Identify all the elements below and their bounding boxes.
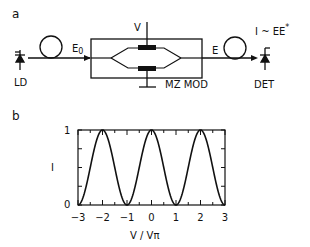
x-tick-label: 2 — [197, 212, 203, 223]
detector-equation: I ~ EE* — [255, 23, 289, 37]
electrode-top — [138, 45, 156, 50]
axis-ticks — [78, 130, 225, 205]
voltage-label: V — [134, 22, 141, 33]
x-tick-label: 3 — [222, 212, 228, 223]
x-tick-label: 1 — [173, 212, 179, 223]
y-tick-0: 0 — [64, 199, 70, 210]
laser-diode-icon — [15, 50, 25, 70]
chart: −3−2−10123 1 0 I V / Vπ — [51, 125, 228, 241]
fiber-coil-icon — [224, 37, 246, 59]
mz-interferometer — [91, 48, 202, 68]
x-tick-label: 0 — [148, 212, 154, 223]
y-tick-1: 1 — [64, 125, 70, 136]
e0-label: E0 — [72, 43, 83, 56]
x-tick-labels: −3−2−10123 — [71, 212, 229, 223]
plot-frame — [78, 130, 225, 205]
y-axis-label: I — [51, 162, 54, 173]
figure: a LD E0 V MZ MOD E I ~ EE* DET b — [0, 0, 310, 247]
arrow-icon — [251, 55, 258, 61]
electrode-bottom — [138, 66, 156, 71]
e-out-label: E — [212, 45, 218, 56]
x-tick-label: −1 — [120, 212, 135, 223]
det-label: DET — [254, 79, 275, 90]
x-tick-label: −3 — [71, 212, 86, 223]
x-axis-label: V / Vπ — [130, 230, 159, 241]
ld-label: LD — [14, 77, 28, 88]
panel-b-label: b — [12, 109, 20, 123]
intensity-curve — [78, 130, 225, 205]
detector-diode-icon — [260, 48, 270, 70]
arrow-icon — [84, 55, 91, 61]
mz-mod-label: MZ MOD — [165, 79, 208, 90]
panel-a-label: a — [12, 7, 19, 21]
x-tick-label: −2 — [95, 212, 110, 223]
fiber-coil-icon — [40, 36, 62, 58]
